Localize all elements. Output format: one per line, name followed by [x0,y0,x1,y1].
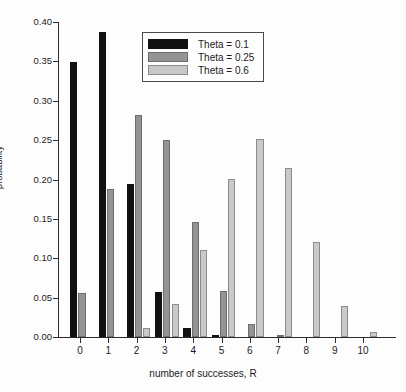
bar [220,291,227,337]
x-axis-tick-label: 4 [181,346,205,356]
x-axis-tick [222,338,223,343]
x-axis-tick [278,338,279,343]
legend-label: Theta = 0.6 [198,65,249,76]
x-axis-tick [306,338,307,343]
bar [172,304,179,337]
legend-swatch [148,65,188,75]
bar [277,335,284,337]
y-axis-tick-label: 0.30 [18,96,52,106]
bar [370,332,377,337]
x-axis-tick [250,338,251,343]
x-axis-title: number of successes, R [0,368,406,379]
x-axis-tick [108,338,109,343]
bar [212,335,219,337]
bar [313,242,320,337]
y-axis-tick [53,101,58,102]
x-axis-tick-label: 1 [96,346,120,356]
bar [183,328,190,337]
legend-swatch [148,52,188,62]
y-axis-tick-label: 0.10 [18,253,52,263]
x-axis-tick [193,338,194,343]
y-axis-tick-label: 0.15 [18,214,52,224]
y-axis-tick-label: 0.25 [18,135,52,145]
x-axis-tick-label: 0 [68,346,92,356]
legend-entry: Theta = 0.1 [148,38,258,50]
y-axis-tick [53,22,58,23]
bar [285,168,292,337]
legend-entry: Theta = 0.6 [148,64,258,76]
x-axis-ticks: 012345678910 [58,338,396,344]
bar [163,140,170,337]
chart-legend: Theta = 0.1Theta = 0.25Theta = 0.6 [142,32,264,82]
x-axis-tick-label: 7 [266,346,290,356]
x-axis-tick-label: 5 [210,346,234,356]
x-axis-tick [335,338,336,343]
x-axis-tick-label: 9 [323,346,347,356]
y-axis-title: probability [0,146,4,189]
bar [107,189,114,337]
y-axis-tick-label: 0.05 [18,293,52,303]
y-axis-tick-label: 0.40 [18,17,52,27]
y-axis-tick [53,140,58,141]
legend-swatch [148,39,188,49]
x-axis-tick-label: 2 [125,346,149,356]
bar [256,139,263,337]
bar [143,328,150,337]
y-axis-tick [53,298,58,299]
y-axis-tick-label: 0.00 [18,332,52,342]
y-axis-tick-label: 0.20 [18,175,52,185]
bar [192,222,199,337]
x-axis-tick-label: 6 [238,346,262,356]
bar [99,32,106,337]
bar [78,293,85,337]
binomial-distribution-chart: 0.000.050.100.150.200.250.300.350.40 012… [0,0,406,392]
legend-entry: Theta = 0.25 [148,51,258,63]
bar [70,62,77,337]
x-axis-tick [80,338,81,343]
legend-label: Theta = 0.25 [198,52,254,63]
bar [248,324,255,337]
bar [155,292,162,337]
y-axis-tick-label: 0.35 [18,56,52,66]
x-axis-tick [363,338,364,343]
y-axis-tick [53,180,58,181]
x-axis-tick [137,338,138,343]
bar [135,115,142,337]
bar [127,184,134,337]
bar [341,306,348,338]
x-axis-tick-label: 3 [153,346,177,356]
bar [200,250,207,337]
y-axis-tick [53,61,58,62]
x-axis-tick [165,338,166,343]
x-axis-tick-label: 10 [351,346,375,356]
y-axis-tick [53,219,58,220]
x-axis-tick-label: 8 [294,346,318,356]
legend-label: Theta = 0.1 [198,39,249,50]
y-axis-tick-labels: 0.000.050.100.150.200.250.300.350.40 [12,22,52,337]
y-axis-tick [53,258,58,259]
bar [228,179,235,337]
